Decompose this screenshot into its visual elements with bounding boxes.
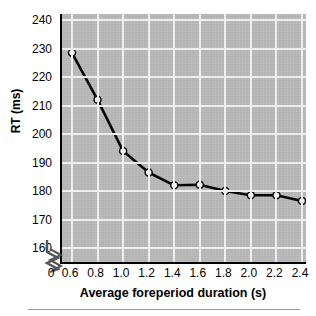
- y-axis-tick-label: 220: [32, 70, 52, 84]
- y-axis-tick-label: 190: [32, 156, 52, 170]
- gridline-vertical: [173, 14, 175, 262]
- gridline-horizontal: [62, 247, 306, 249]
- gridline-vertical: [224, 14, 226, 262]
- gridline-vertical: [71, 14, 73, 262]
- x-axis-tick-label: 1.6: [189, 266, 206, 280]
- x-axis-line: [60, 262, 306, 264]
- y-axis-tick-label: 230: [32, 42, 52, 56]
- x-axis-tick-label: 0.6: [62, 266, 79, 280]
- x-axis-tick-label: 1.2: [138, 266, 155, 280]
- gridline-horizontal: [62, 190, 306, 192]
- gridline-vertical: [148, 14, 150, 262]
- gridline-vertical: [122, 14, 124, 262]
- x-axis-tick-label: 0.8: [87, 266, 104, 280]
- data-series-layer: [62, 14, 306, 262]
- gridline-vertical: [199, 14, 201, 262]
- y-axis-tick-label: 200: [32, 127, 52, 141]
- gridline-vertical: [97, 14, 99, 262]
- gridline-vertical: [301, 14, 303, 262]
- y-axis-tick-label: 210: [32, 99, 52, 113]
- x-axis-tick-label: 0: [48, 266, 55, 280]
- gridline-horizontal: [62, 48, 306, 50]
- gridline-horizontal: [62, 133, 306, 135]
- gridline-vertical: [250, 14, 252, 262]
- series-line: [72, 53, 302, 201]
- y-axis-tick-label: 180: [32, 184, 52, 198]
- y-axis-tick-label: 170: [32, 213, 52, 227]
- x-axis-tick-labels: 00.60.81.01.21.41.61.82.02.22.4: [0, 266, 316, 284]
- x-axis-tick-label: 1.8: [215, 266, 232, 280]
- gridline-horizontal: [62, 162, 306, 164]
- x-axis-title: Average foreperiod duration (s): [40, 286, 306, 300]
- y-axis-tick-label: 240: [32, 13, 52, 27]
- x-axis-tick-label: 1.4: [164, 266, 181, 280]
- gridline-horizontal: [62, 219, 306, 221]
- x-axis-tick-label: 1.0: [113, 266, 130, 280]
- bottom-divider: [28, 309, 300, 310]
- x-axis-tick-label: 2.2: [266, 266, 283, 280]
- gridline-horizontal: [62, 105, 306, 107]
- x-axis-tick-label: 2.4: [292, 266, 309, 280]
- plot-area: [60, 14, 306, 262]
- gridline-horizontal: [62, 19, 306, 21]
- gridline-vertical: [275, 14, 277, 262]
- x-axis-tick-label: 2.0: [241, 266, 258, 280]
- chart-figure: RT (ms) 160170180190200210220230240 00.6…: [0, 0, 316, 316]
- gridline-horizontal: [62, 76, 306, 78]
